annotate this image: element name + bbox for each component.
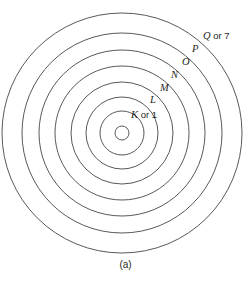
shell-label-m: M [160, 83, 169, 94]
shell-number-suffix: or 7 [211, 30, 230, 41]
shell-symbol: O [182, 56, 190, 67]
shell-symbol: Q [203, 30, 211, 41]
shell-label-p: P [192, 44, 198, 55]
shell-number-suffix: or 1 [138, 109, 157, 120]
shell-label-n: N [171, 70, 178, 81]
shell-symbol: K [131, 109, 138, 120]
shell-symbol: N [171, 69, 178, 80]
shell-label-k: K or 1 [131, 110, 157, 121]
figure-caption: (a) [0, 259, 251, 270]
nucleus-circle [115, 126, 129, 140]
shell-rings-group [2, 13, 242, 253]
shell-label-q: Q or 7 [203, 31, 230, 42]
shell-label-l: L [150, 95, 156, 106]
shell-symbol: L [150, 94, 156, 105]
shell-symbol: P [192, 43, 198, 54]
shell-ring-l [86, 97, 158, 169]
figure-container: K or 1LMNOPQ or 7 (a) [0, 0, 251, 288]
shell-label-o: O [182, 57, 190, 68]
electron-shell-svg [0, 0, 251, 288]
shell-ring-p [22, 33, 222, 233]
shell-ring-o [39, 50, 205, 216]
shell-symbol: M [160, 82, 169, 93]
shell-ring-q [2, 13, 242, 253]
